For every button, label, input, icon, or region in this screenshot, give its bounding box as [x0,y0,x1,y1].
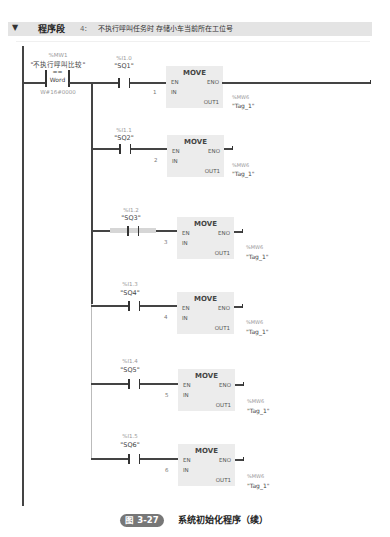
compare-operand: W#16#0000 [30,89,86,95]
wire [235,384,243,386]
in-value[interactable]: 5 [165,392,169,398]
caption-text: 系统初始化程序（续） [178,513,268,528]
out-address: %MW6 [232,162,249,168]
no-contact-icon[interactable] [128,301,140,311]
rung-end-icon [242,229,243,233]
network-number: 4： [80,22,91,36]
contact-address: %I1.2 [111,207,151,213]
network-title: 程序段 [38,22,65,36]
eno-pin: ENO [219,457,231,463]
wire [91,305,128,307]
out-pin: OUT1 [215,250,230,256]
compare-address: %MW1 [34,52,82,58]
rung-end-icon [232,146,233,150]
in-value[interactable]: 3 [164,239,168,245]
wire [140,305,177,307]
contact-name: "SQ5" [110,366,150,374]
wire [131,148,167,150]
en-pin: EN [183,382,191,388]
in-pin: IN [172,158,178,164]
contact-address: %I1.4 [110,358,150,364]
in-value[interactable]: 6 [165,467,169,473]
out-address: %MW6 [232,94,249,100]
wire [91,148,119,150]
power-rail [22,46,24,506]
no-contact-icon[interactable] [119,144,131,154]
in-pin: IN [183,392,189,398]
out-address: %MW6 [247,398,264,404]
out-name[interactable]: "Tag_1" [247,482,270,489]
figure-label-badge: 图 3-27 [120,514,164,527]
wire [235,459,243,461]
contact-name: "SQ4" [110,289,150,297]
no-contact-icon[interactable] [127,226,139,236]
move-block[interactable]: MOVE EN ENO IN OUT1 [177,292,234,334]
contact-name: "SQ3" [111,214,151,222]
wire [91,383,128,385]
move-block[interactable]: MOVE EN ENO IN OUT1 [166,66,223,108]
wire [69,82,91,84]
wire [91,458,128,460]
eno-pin: ENO [218,230,230,236]
wire [130,82,166,84]
compare-right-bar [68,70,70,87]
network-frame [16,41,370,42]
contact-address: %I1.1 [104,127,144,133]
contact-address: %I1.3 [110,281,150,287]
out-name[interactable]: "Tag_1" [232,102,255,109]
compare-operator: == [47,68,68,75]
move-block[interactable]: MOVE EN ENO IN OUT1 [178,369,235,411]
contact-address: %I1.5 [110,433,150,439]
move-block[interactable]: MOVE EN ENO IN OUT1 [167,135,224,177]
wire [22,82,45,84]
wire [224,148,232,150]
rung-end-icon [242,304,243,308]
wire [234,231,242,233]
wire [222,82,370,84]
no-contact-icon[interactable] [128,379,140,389]
collapse-triangle-icon[interactable]: ▼ [12,23,18,32]
out-name[interactable]: "Tag_1" [247,407,270,414]
eno-pin: ENO [219,382,231,388]
en-pin: EN [182,230,190,236]
out-pin: OUT1 [204,99,219,105]
block-title: MOVE [177,220,234,228]
in-value[interactable]: 2 [154,157,158,163]
network-header: ▼ 程序段 4： 不执行呼叫任务时 存储小车当前所在工位号 [8,22,372,36]
move-block[interactable]: MOVE EN ENO IN OUT1 [178,444,235,486]
contact-name: "SQ2" [104,134,144,142]
network-comment[interactable]: 不执行呼叫任务时 存储小车当前所在工位号 [98,22,233,36]
block-title: MOVE [167,138,224,146]
rung-end-icon [370,80,371,84]
branch-rail [91,82,93,304]
out-pin: OUT1 [205,168,220,174]
out-name[interactable]: "Tag_1" [232,170,255,177]
rung-end-icon [243,382,244,386]
contact-address: %I1.0 [104,55,144,61]
block-title: MOVE [177,295,234,303]
block-title: MOVE [178,447,235,455]
out-pin: OUT1 [216,402,231,408]
en-pin: EN [182,305,190,311]
out-name[interactable]: "Tag_1" [246,328,269,335]
out-pin: OUT1 [216,477,231,483]
out-address: %MW6 [247,473,264,479]
in-pin: IN [182,315,188,321]
in-value[interactable]: 1 [153,89,157,95]
out-address: %MW6 [246,319,263,325]
no-contact-icon[interactable] [118,78,130,88]
in-pin: IN [183,467,189,473]
out-name[interactable]: "Tag_1" [246,253,269,260]
eno-pin: ENO [218,305,230,311]
en-pin: EN [172,148,180,154]
wire [140,458,178,460]
block-title: MOVE [178,372,235,380]
block-title: MOVE [166,69,223,77]
in-value[interactable]: 4 [164,314,168,320]
no-contact-icon[interactable] [128,454,140,464]
move-block[interactable]: MOVE EN ENO IN OUT1 [177,217,234,259]
out-address: %MW6 [246,244,263,250]
in-pin: IN [171,89,177,95]
eno-pin: ENO [208,148,220,154]
figure-caption: 图 3-27 系统初始化程序（续） [0,511,390,531]
